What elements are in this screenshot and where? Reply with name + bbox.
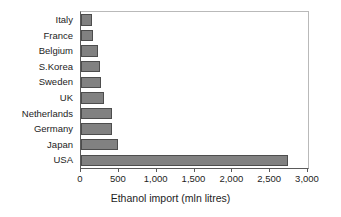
x-axis-tick-label: 0	[77, 173, 82, 184]
y-axis-category-labels: ItalyFranceBelgiumS.KoreaSwedenUKNetherl…	[0, 12, 76, 168]
x-axis-title: Ethanol import (mln litres)	[0, 192, 341, 204]
bar	[81, 30, 93, 41]
bar	[81, 61, 100, 72]
bar-row	[81, 121, 308, 137]
x-axis-tick-label: 1,500	[182, 173, 206, 184]
x-axis-tick	[231, 168, 232, 172]
bar-row	[81, 106, 308, 122]
y-axis-category-label: Japan	[0, 137, 76, 153]
bar-row	[81, 152, 308, 168]
y-axis-category-label: Belgium	[0, 43, 76, 59]
y-axis-category-label: Italy	[0, 12, 76, 28]
x-axis-tick	[269, 168, 270, 172]
y-axis-category-label: Sweden	[0, 74, 76, 90]
bar-row	[81, 28, 308, 44]
bar-row	[81, 90, 308, 106]
bar	[81, 45, 98, 56]
bar-row	[81, 12, 308, 28]
bar-chart: ItalyFranceBelgiumS.KoreaSwedenUKNetherl…	[0, 0, 341, 217]
bar	[81, 108, 112, 119]
y-axis-category-label: USA	[0, 152, 76, 168]
x-axis-tick-label: 2,500	[257, 173, 281, 184]
x-axis-tick-label: 500	[110, 173, 126, 184]
x-axis-tick-labels: 05001,0001,5002,0002,5003,000	[80, 173, 308, 187]
x-axis-tick-label: 3,000	[295, 173, 319, 184]
bar	[81, 77, 101, 88]
bar-row	[81, 74, 308, 90]
bar	[81, 14, 92, 25]
y-axis-category-label: UK	[0, 90, 76, 106]
bar-row	[81, 59, 308, 75]
bar	[81, 155, 288, 166]
bar-series	[81, 12, 308, 168]
x-axis-tick	[194, 168, 195, 172]
x-axis-tick-label: 1,000	[144, 173, 168, 184]
x-axis-tick	[80, 168, 81, 172]
y-axis-category-label: Netherlands	[0, 106, 76, 122]
bar	[81, 92, 104, 103]
x-axis-tick	[156, 168, 157, 172]
bar-row	[81, 137, 308, 153]
x-axis-tick	[307, 168, 308, 172]
x-axis-tick	[118, 168, 119, 172]
x-axis-tick-label: 2,000	[219, 173, 243, 184]
y-axis-category-label: Germany	[0, 121, 76, 137]
y-axis-category-label: France	[0, 28, 76, 44]
bar-row	[81, 43, 308, 59]
y-axis-category-label: S.Korea	[0, 59, 76, 75]
bar	[81, 123, 112, 134]
bar	[81, 139, 118, 150]
